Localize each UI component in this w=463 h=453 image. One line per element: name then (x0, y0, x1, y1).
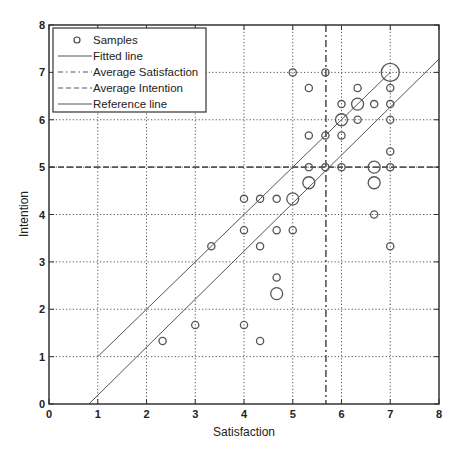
y-tick-label: 2 (39, 303, 45, 315)
y-tick-label: 1 (39, 351, 45, 363)
y-tick-label: 7 (39, 66, 45, 78)
x-tick-label: 7 (387, 408, 393, 420)
y-tick-label: 3 (39, 256, 45, 268)
y-axis-label: Intention (17, 191, 31, 237)
legend-label-average-satisfaction: Average Satisfaction (93, 66, 198, 78)
scatter-chart: 012345678 012345678 Satisfaction Intenti… (0, 0, 463, 453)
y-tick-label: 0 (39, 398, 45, 410)
x-tick-label: 1 (95, 408, 101, 420)
y-tick-label: 5 (39, 161, 45, 173)
legend-label-average-intention: Average Intention (93, 82, 183, 94)
legend-label-samples: Samples (93, 34, 138, 46)
legend-label-reference-line: Reference line (93, 98, 167, 110)
x-tick-label: 2 (143, 408, 149, 420)
x-tick-label: 3 (192, 408, 198, 420)
y-tick-label: 8 (39, 19, 45, 31)
x-tick-label: 8 (436, 408, 442, 420)
legend-label-fitted-line: Fitted line (93, 50, 143, 62)
x-tick-label: 6 (338, 408, 344, 420)
y-tick-label: 6 (39, 114, 45, 126)
x-tick-label: 0 (46, 408, 52, 420)
y-tick-label: 4 (39, 209, 46, 221)
y-tick-labels: 012345678 (39, 19, 46, 410)
x-axis-label: Satisfaction (213, 425, 275, 439)
legend: Samples Fitted line Average Satisfaction… (53, 28, 206, 112)
x-tick-label: 5 (290, 408, 296, 420)
x-tick-label: 4 (241, 408, 248, 420)
